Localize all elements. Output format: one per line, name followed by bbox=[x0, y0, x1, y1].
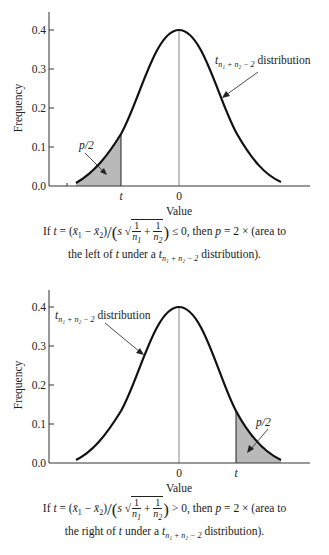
caption-text: = ( bbox=[57, 225, 73, 237]
xtick-zero-label: 0 bbox=[176, 467, 182, 479]
curve-label-arrow bbox=[226, 72, 258, 95]
xtick-t-label: t bbox=[119, 190, 123, 202]
ytick-label: 0.4 bbox=[32, 301, 47, 313]
figure-canvas: 0.4 0.3 0.2 0.1 0.0 t 0 Value Frequency … bbox=[0, 0, 329, 555]
sqrt-term: 1n1 + 1n2 bbox=[131, 496, 163, 523]
curve-label: tn₁ + n₂ − 2 distribution bbox=[215, 54, 311, 69]
caption-text: ≤ 0, then bbox=[169, 225, 215, 237]
shade-label: p/2 bbox=[255, 416, 271, 429]
x-axis-title: Value bbox=[166, 205, 192, 217]
caption-text: distribution). bbox=[202, 525, 265, 537]
xtick-t-label: t bbox=[234, 467, 238, 479]
caption-var: s bbox=[117, 502, 121, 514]
caption-text: If bbox=[43, 225, 54, 237]
ytick-label: 0.1 bbox=[32, 418, 47, 430]
arrowhead-icon bbox=[222, 91, 230, 98]
ytick-label: 0.1 bbox=[32, 141, 47, 153]
caption-text: distribution). bbox=[198, 248, 261, 260]
caption-text: under a bbox=[122, 525, 162, 537]
ytick-label: 0.3 bbox=[32, 340, 47, 352]
ytick-label: 0.0 bbox=[32, 180, 47, 192]
shade-label: p/2 bbox=[78, 139, 94, 152]
chart-right-tail: 0.4 0.3 0.2 0.1 0.0 0 t Value Frequency … bbox=[12, 290, 310, 494]
caption-text: > 0, then bbox=[169, 502, 215, 514]
y-ticks bbox=[49, 30, 67, 186]
x-axis-title: Value bbox=[166, 482, 192, 494]
caption-text: = ( bbox=[57, 502, 73, 514]
caption-text: If bbox=[43, 502, 54, 514]
caption-text: the left of bbox=[68, 248, 116, 260]
ytick-label: 0.0 bbox=[32, 457, 47, 469]
caption-text: − bbox=[82, 502, 94, 514]
caption-text: = 2 × (area to bbox=[221, 502, 286, 514]
caption-sub: n₁ + n₂ − 2 bbox=[162, 254, 198, 263]
caption-var: s bbox=[117, 225, 121, 237]
y-axis-title: Frequency bbox=[12, 360, 25, 409]
xtick-zero-label: 0 bbox=[176, 190, 182, 202]
ytick-label: 0.2 bbox=[32, 102, 47, 114]
caption-line-1: If t = (x̄1 − x̄2)/(s √1n1 + 1n2) ≤ 0, t… bbox=[0, 219, 329, 246]
ytick-label: 0.3 bbox=[32, 63, 47, 75]
caption-text: = 2 × (area to bbox=[221, 225, 286, 237]
chart-left-tail: 0.4 0.3 0.2 0.1 0.0 t 0 Value Frequency … bbox=[12, 12, 311, 217]
caption-line-2: the right of t under a tn₁ + n₂ − 2 dist… bbox=[0, 523, 329, 544]
caption-text: − bbox=[82, 225, 94, 237]
caption-line-1: If t = (x̄1 − x̄2)/(s √1n1 + 1n2) > 0, t… bbox=[0, 496, 329, 523]
ytick-label: 0.2 bbox=[32, 379, 47, 391]
caption-text: under a bbox=[119, 248, 159, 260]
caption-sub: n₁ + n₂ − 2 bbox=[165, 531, 201, 540]
caption-line-2: the left of t under a tn₁ + n₂ − 2 distr… bbox=[0, 246, 329, 267]
caption-text: the right of bbox=[65, 525, 119, 537]
y-ticks bbox=[49, 307, 54, 424]
y-axis-title: Frequency bbox=[12, 83, 25, 132]
ytick-label: 0.4 bbox=[32, 24, 47, 36]
arrowhead-icon bbox=[136, 348, 144, 355]
caption-right-tail: If t = (x̄1 − x̄2)/(s √1n1 + 1n2) > 0, t… bbox=[0, 496, 329, 544]
caption-left-tail: If t = (x̄1 − x̄2)/(s √1n1 + 1n2) ≤ 0, t… bbox=[0, 219, 329, 267]
sqrt-term: 1n1 + 1n2 bbox=[131, 219, 163, 246]
curve-label-arrow bbox=[105, 323, 140, 352]
curve-label: tn₁ + n₂ − 2 distribution bbox=[55, 309, 151, 324]
